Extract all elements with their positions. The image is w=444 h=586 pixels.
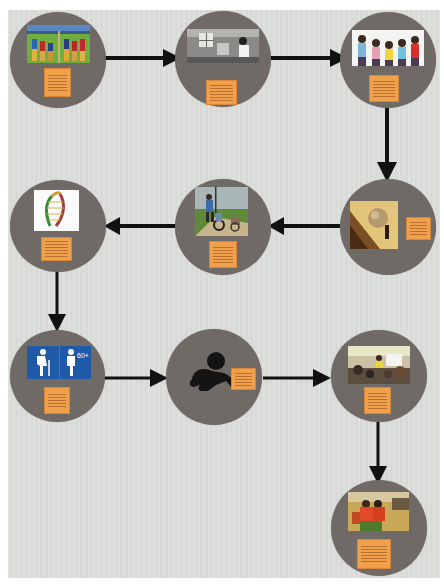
cafeteria-image	[348, 492, 409, 531]
classroom-photo-icon	[187, 29, 259, 63]
mural-image	[27, 25, 90, 63]
sisyphus-boulder-image	[350, 201, 398, 249]
arrow-4-to-5	[268, 217, 340, 235]
classroom-teacher-icon	[348, 346, 410, 384]
node-7: 60+	[10, 330, 105, 422]
note-card	[406, 217, 431, 240]
arrow-5-to-6	[104, 217, 176, 235]
note-card	[357, 539, 391, 569]
node-10	[331, 480, 427, 576]
arrow-7-to-8	[104, 369, 168, 387]
people-wheelchair-icon	[195, 187, 248, 236]
elderly-60-plus-icon: 60+	[27, 346, 91, 379]
node-8	[166, 329, 262, 425]
dna-image	[34, 190, 79, 231]
arrow-9-to-10	[368, 422, 388, 484]
arrow-3-to-4	[377, 104, 397, 182]
children-backpacks-icon	[352, 30, 424, 66]
arrow-1-to-2	[103, 49, 181, 67]
arrow-2-to-3	[270, 49, 348, 67]
note-card	[369, 75, 399, 102]
note-card	[41, 237, 72, 261]
sixty-plus-label: 60+	[77, 352, 89, 359]
dna-helix-icon	[34, 190, 79, 231]
wheelchair-walk-image	[195, 187, 248, 236]
node-3	[340, 12, 436, 108]
classroom-bw-image	[187, 29, 259, 63]
arrow-8-to-9	[263, 369, 331, 387]
boulder-pushing-icon	[350, 201, 398, 249]
node-5	[175, 179, 271, 275]
node-2	[175, 11, 271, 107]
node-6	[10, 180, 106, 272]
note-card	[364, 387, 391, 414]
arrow-6-to-7	[47, 270, 67, 332]
children-backpacks-image	[352, 30, 424, 66]
children-cafeteria-icon	[348, 492, 409, 531]
note-card	[231, 368, 256, 390]
note-card	[206, 80, 237, 105]
note-card	[44, 68, 71, 97]
node-1	[10, 12, 106, 108]
node-9	[331, 330, 427, 422]
classroom-teacher-image	[348, 346, 410, 384]
note-card	[44, 387, 70, 414]
note-card	[209, 241, 237, 268]
elderly-sign-image: 60+	[27, 346, 91, 379]
children-mural-icon	[27, 25, 90, 63]
node-4	[340, 179, 436, 275]
